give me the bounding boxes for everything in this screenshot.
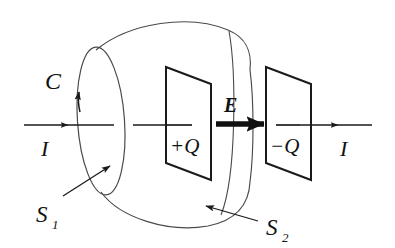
diagram-canvas: C I I E +Q −Q S 1 S 2 — [0, 0, 395, 248]
physics-figure: C I I E +Q −Q S 1 S 2 — [0, 0, 395, 248]
label-surface-s2: S 2 — [266, 215, 289, 245]
s2-top-curve — [96, 22, 250, 70]
label-s2-main: S — [266, 215, 278, 240]
label-charge-positive: +Q — [170, 134, 199, 158]
label-efield: E — [223, 94, 237, 116]
s1-ellipse — [72, 46, 129, 197]
c-arrowhead — [78, 92, 80, 112]
label-charge-negative: −Q — [270, 134, 299, 158]
right-plate-outline — [266, 67, 311, 180]
label-curve-c: C — [45, 68, 62, 94]
label-current-right: I — [339, 136, 349, 161]
s2-leader-line — [206, 206, 258, 221]
left-plate-outline — [166, 67, 211, 180]
label-s1-main: S — [36, 202, 48, 227]
s2-leader — [206, 206, 258, 221]
surface-s1-disk — [72, 46, 129, 197]
label-s2-subscript: 2 — [282, 230, 289, 245]
loop-direction-arrow — [78, 92, 80, 112]
label-s1-subscript: 1 — [52, 217, 59, 232]
label-surface-s1: S 1 — [36, 202, 59, 232]
label-current-left: I — [40, 136, 50, 161]
capacitor-plate-positive — [166, 67, 211, 180]
capacitor-plate-negative — [266, 67, 311, 180]
